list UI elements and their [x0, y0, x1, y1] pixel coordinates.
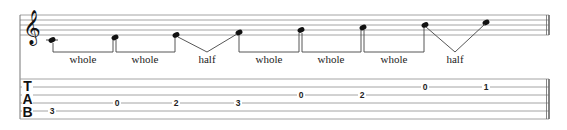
interval-label: whole	[256, 53, 283, 65]
fret-number: 2	[174, 98, 179, 108]
note-head	[421, 21, 430, 29]
note-head	[48, 36, 57, 44]
fret-number: 0	[423, 82, 428, 92]
interval-label: whole	[70, 53, 97, 65]
fret-number: 0	[299, 90, 304, 100]
score-diagram: 𝄞 whole whole half whole whole wh	[0, 0, 567, 130]
interval-label: whole	[132, 53, 159, 65]
interval-labels: whole whole half whole whole whole half	[70, 53, 464, 65]
tab-staff	[20, 79, 549, 119]
fret-number: 3	[236, 98, 241, 108]
note-head	[297, 26, 306, 34]
interval-label: half	[446, 53, 463, 65]
interval-label: whole	[381, 53, 408, 65]
standard-staff	[20, 15, 549, 35]
fret-number: 0	[115, 98, 120, 108]
fret-number: 3	[50, 106, 55, 116]
interval-label: whole	[318, 53, 345, 65]
tab-clef: T A B	[22, 78, 33, 120]
tab-letter-b: B	[22, 104, 32, 120]
interval-label: half	[198, 53, 215, 65]
fret-number: 2	[360, 90, 365, 100]
final-barline-tab	[547, 79, 550, 119]
fret-number: 1	[484, 82, 489, 92]
treble-clef-icon: 𝄞	[23, 9, 41, 46]
